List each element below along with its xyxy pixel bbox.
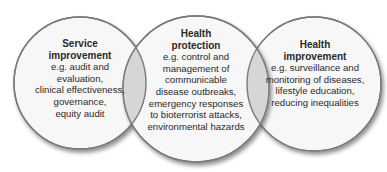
health-improvement-description: e.g. surveillance and monitoring of dise… — [258, 62, 372, 108]
service-improvement-title: Service improvement — [22, 38, 138, 61]
health-protection-title: Health protection — [134, 28, 258, 51]
label-service-improvement: Service improvement e.g. audit and evalu… — [22, 38, 138, 119]
health-improvement-title: Health improvement — [258, 39, 372, 62]
label-health-improvement: Health improvement e.g. surveillance and… — [258, 39, 372, 109]
label-health-protection: Health protection e.g. control and manag… — [134, 28, 258, 132]
service-improvement-description: e.g. audit and evaluation, clinical effe… — [22, 61, 138, 119]
health-protection-description: e.g. control and management of communica… — [134, 51, 258, 132]
